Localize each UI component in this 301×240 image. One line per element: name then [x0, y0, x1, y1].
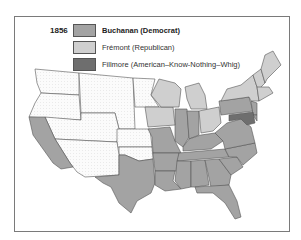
massachusetts-ct-ri — [257, 87, 273, 101]
maine — [261, 51, 281, 83]
florida — [195, 185, 241, 219]
us-map — [15, 17, 291, 233]
indiana — [187, 111, 199, 139]
arkansas — [153, 153, 179, 171]
washington-territory — [35, 69, 79, 95]
iowa — [145, 107, 175, 127]
michigan — [185, 83, 207, 109]
kansas-territory — [117, 129, 152, 147]
ohio — [199, 107, 221, 133]
map-frame: 1856 Buchanan (Democrat) Frémont (Republ… — [14, 16, 290, 232]
oregon — [29, 93, 81, 120]
mississippi — [175, 161, 191, 189]
new-york — [221, 75, 259, 101]
